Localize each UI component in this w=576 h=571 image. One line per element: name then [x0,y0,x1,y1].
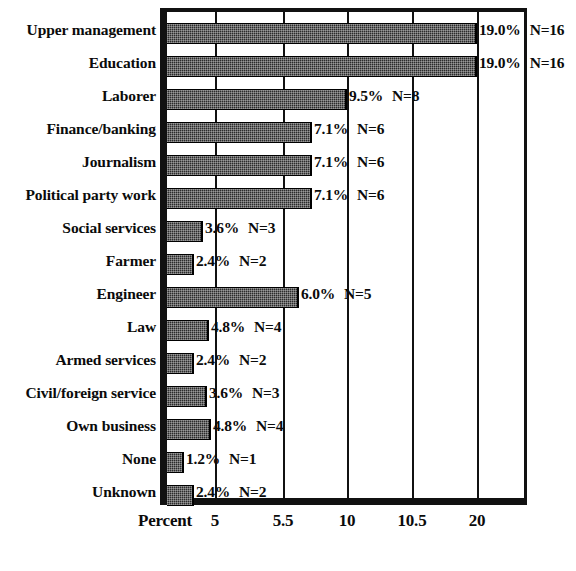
bar [167,188,312,209]
gridline-10 [347,12,349,498]
category-label: Unknown [0,484,156,500]
category-label: Social services [0,220,156,236]
category-label: Law [0,319,156,335]
bar-chart: Upper managementEducationLaborerFinance/… [0,0,576,571]
bar-count-label: N=6 [357,154,384,170]
bar-count-label: N=6 [357,121,384,137]
bar-percent-label: 6.0% [301,286,335,302]
bar-percent-label: 3.6% [209,385,243,401]
x-tick-label: 20 [469,512,486,529]
bar-percent-label: 1.2% [186,451,220,467]
x-tick-label: 5.5 [273,512,294,529]
bar-percent-label: 7.1% [314,154,348,170]
bar-percent-label: 2.4% [196,484,230,500]
category-label: Laborer [0,88,156,104]
bar [167,353,194,374]
bar-value-annotation: 2.4%N=2 [196,352,266,368]
category-label: Engineer [0,286,156,302]
bar [167,485,194,506]
bar-percent-label: 3.6% [205,220,239,236]
bar-percent-label: 7.1% [314,187,348,203]
bar-percent-label: 2.4% [196,352,230,368]
bar-value-annotation: 6.0%N=5 [301,286,371,302]
bar [167,23,477,44]
x-axis-title: Percent [138,512,192,529]
category-label: None [0,451,156,467]
bar-count-label: N=3 [252,385,279,401]
bar-value-annotation: 7.1%N=6 [314,187,384,203]
bar-value-annotation: 3.6%N=3 [209,385,279,401]
gridline-10-5 [412,12,414,498]
bar-value-annotation: 7.1%N=6 [314,121,384,137]
category-label: Armed services [0,352,156,368]
x-tick-label: 5 [211,512,219,529]
bar [167,56,477,77]
x-tick-mark-5-5 [283,476,285,498]
bar-count-label: N=5 [344,286,371,302]
x-tick-mark-20 [477,476,479,498]
bar-count-label: N=6 [357,187,384,203]
bar-value-annotation: 7.1%N=6 [314,154,384,170]
x-axis: Percent 55.51010.520 [0,512,576,552]
category-label: Farmer [0,253,156,269]
bar-percent-label: 4.8% [213,418,247,434]
bar-percent-label: 19.0% [479,55,521,71]
bar-count-label: N=4 [254,319,281,335]
category-label-column: Upper managementEducationLaborerFinance/… [0,0,156,505]
bar-count-label: N=16 [530,55,565,71]
bar-value-annotation: 4.8%N=4 [211,319,281,335]
gridline-5-5 [283,12,285,498]
bar [167,122,312,143]
bar-percent-label: 9.5% [349,88,383,104]
category-label: Own business [0,418,156,434]
bar-count-label: N=2 [239,253,266,269]
bar-count-label: N=3 [248,220,275,236]
category-label: Journalism [0,154,156,170]
x-tick-mark-10-5 [412,476,414,498]
category-label: Finance/banking [0,121,156,137]
bar [167,89,347,110]
category-label: Civil/foreign service [0,385,156,401]
bar-percent-label: 4.8% [211,319,245,335]
bar-value-annotation: 9.5%N=8 [349,88,419,104]
bar-value-annotation: 2.4%N=2 [196,253,266,269]
bar [167,254,194,275]
bar [167,320,209,341]
gridline-20 [477,12,479,498]
bar-count-label: N=1 [229,451,256,467]
bar-percent-label: 7.1% [314,121,348,137]
category-label: Political party work [0,187,156,203]
bar-count-label: N=8 [392,88,419,104]
bar-value-annotation: 2.4%N=2 [196,484,266,500]
bar-value-annotation: 1.2%N=1 [186,451,256,467]
bar-value-annotation: 19.0%N=16 [479,22,564,38]
bar [167,419,211,440]
x-tick-label: 10.5 [398,512,427,529]
bar-value-annotation: 4.8%N=4 [213,418,283,434]
bar-count-label: N=16 [530,22,565,38]
category-label: Education [0,55,156,71]
bar-value-annotation: 19.0%N=16 [479,55,564,71]
bar [167,221,203,242]
category-label: Upper management [0,22,156,38]
bar-value-annotation: 3.6%N=3 [205,220,275,236]
bar [167,287,299,308]
bar-count-label: N=4 [256,418,283,434]
bar [167,452,184,473]
bar [167,386,207,407]
x-tick-mark-10 [347,476,349,498]
x-tick-label: 10 [339,512,356,529]
bar-count-label: N=2 [239,352,266,368]
bar-percent-label: 2.4% [196,253,230,269]
bar-count-label: N=2 [239,484,266,500]
bar [167,155,312,176]
bar-percent-label: 19.0% [479,22,521,38]
